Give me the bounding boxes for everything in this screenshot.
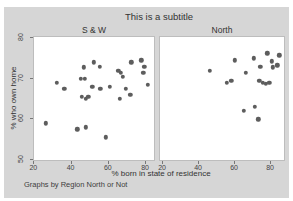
y-tick-mark [30, 78, 33, 79]
data-point [82, 76, 86, 80]
scatter-panel-north [159, 36, 285, 161]
y-tick-label: 70 [17, 74, 24, 82]
stata-graph-figure: This is a subtitle S & W North % who own… [4, 7, 289, 198]
data-point [141, 70, 145, 74]
data-point [55, 81, 59, 85]
data-point [118, 97, 122, 101]
panel-header-north: North [159, 25, 285, 35]
data-point [253, 105, 257, 109]
data-point [43, 121, 47, 125]
data-point [233, 58, 237, 62]
data-point [275, 63, 279, 67]
data-point [258, 64, 262, 68]
data-point [270, 59, 274, 63]
data-point [62, 87, 66, 91]
y-tick-mark [30, 118, 33, 119]
data-point [97, 64, 101, 68]
y-tick-label: 50 [17, 155, 24, 163]
figure-note: Graphs by Region North or Not [24, 180, 127, 189]
data-point [90, 85, 94, 89]
y-tick-label: 80 [17, 33, 24, 41]
data-point [75, 127, 79, 131]
panel-header-sw: S & W [33, 25, 155, 35]
y-tick-mark [30, 159, 33, 160]
data-point [86, 95, 90, 99]
data-point [83, 125, 87, 129]
data-point [82, 65, 86, 69]
data-point [256, 117, 260, 121]
data-point [108, 85, 112, 89]
data-point [252, 56, 256, 60]
data-point [104, 135, 108, 139]
data-point [98, 87, 102, 91]
data-point [244, 70, 248, 74]
chart-title: This is a subtitle [33, 11, 285, 22]
data-point [92, 60, 96, 64]
data-point [277, 53, 281, 57]
data-point [129, 60, 133, 64]
y-tick-label: 60 [17, 114, 24, 122]
data-point [267, 81, 271, 85]
data-point [208, 68, 212, 72]
data-point [229, 78, 233, 82]
data-point [142, 64, 146, 68]
scatter-panel-sw [33, 36, 155, 161]
data-point [146, 83, 150, 87]
data-point [123, 87, 127, 91]
x-axis-title: % born in state of residence [33, 169, 289, 178]
data-point [121, 74, 125, 78]
data-point [128, 93, 132, 97]
y-tick-mark [30, 37, 33, 38]
data-point [139, 58, 143, 62]
screenshot-canvas: This is a subtitle S & W North % who own… [0, 0, 293, 201]
data-point [242, 109, 246, 113]
data-point [265, 51, 269, 55]
